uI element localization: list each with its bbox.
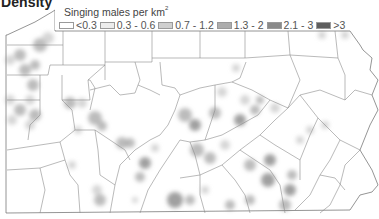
density-blob xyxy=(68,161,76,169)
density-blob xyxy=(234,114,246,126)
legend-swatch xyxy=(267,22,282,29)
legend-item: <0.3 xyxy=(59,19,97,31)
density-blob xyxy=(296,136,304,144)
density-blob xyxy=(30,60,40,70)
legend-item: 1.3 - 2 xyxy=(217,19,264,31)
density-blob xyxy=(185,195,195,205)
legend-swatch xyxy=(59,22,74,29)
density-blob xyxy=(151,144,159,152)
density-blob xyxy=(306,126,314,134)
density-blob xyxy=(189,119,201,131)
legend-swatch xyxy=(316,22,331,29)
legend: Singing males per km2 <0.3 0.3 - 0.6 0.7… xyxy=(55,2,377,30)
density-blob xyxy=(77,98,87,108)
density-blob xyxy=(139,157,151,169)
density-blob xyxy=(27,79,39,91)
density-blob xyxy=(204,152,216,164)
density-blob xyxy=(220,140,230,150)
pennsylvania-density-map xyxy=(0,0,379,219)
density-blob xyxy=(94,194,106,206)
density-blob xyxy=(29,109,41,121)
legend-title: Singing males per km2 xyxy=(64,6,168,18)
density-blob xyxy=(135,172,145,182)
legend-swatch xyxy=(100,22,115,29)
density-blob xyxy=(92,185,102,195)
density-blob xyxy=(178,108,192,122)
legend-swatch xyxy=(158,22,173,29)
density-blob xyxy=(270,103,280,113)
density-blob xyxy=(240,95,250,105)
density-blob xyxy=(217,87,227,97)
density-blob xyxy=(341,31,349,39)
density-blob xyxy=(14,49,26,61)
density-blob xyxy=(64,97,76,109)
density-blob xyxy=(97,121,107,131)
density-blob xyxy=(287,170,297,180)
density-blob xyxy=(125,138,135,148)
density-blob xyxy=(132,197,138,203)
legend-item: 0.7 - 1.2 xyxy=(158,19,214,31)
density-blob xyxy=(232,64,240,72)
density-blob xyxy=(225,200,235,210)
density-blob xyxy=(284,184,296,196)
density-blob xyxy=(279,199,291,211)
county-boundaries xyxy=(6,10,378,213)
density-blob xyxy=(256,96,264,104)
density-blob xyxy=(261,173,275,187)
density-blob xyxy=(19,64,31,76)
density-blob xyxy=(250,105,260,115)
density-blob xyxy=(264,154,276,166)
density-blob xyxy=(244,159,256,171)
density-blob xyxy=(190,143,204,157)
legend-item: 2.1 - 3 xyxy=(267,19,314,31)
density-blob xyxy=(42,32,54,44)
density-blob xyxy=(14,104,26,116)
density-blob xyxy=(318,31,326,39)
legend-item: >3 xyxy=(316,19,345,31)
density-blob xyxy=(7,115,17,125)
legend-item: 0.3 - 0.6 xyxy=(100,19,156,31)
density-blob xyxy=(201,186,209,194)
map-title: Density xyxy=(1,0,52,10)
legend-items: <0.3 0.3 - 0.6 0.7 - 1.2 1.3 - 2 2.1 - 3… xyxy=(59,19,348,31)
legend-swatch xyxy=(217,22,232,29)
density-blob xyxy=(5,55,15,65)
density-blob xyxy=(167,192,183,208)
